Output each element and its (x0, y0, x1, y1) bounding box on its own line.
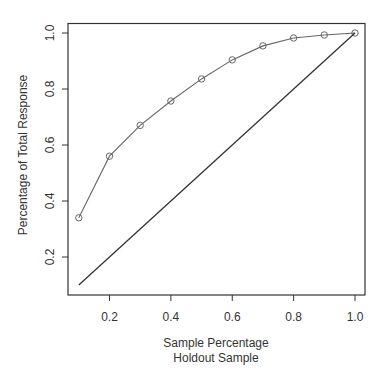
gains-chart: 0.20.40.60.81.0 0.20.40.60.81.0 Sample P… (0, 0, 385, 378)
baseline-line (79, 33, 355, 285)
x-tick-label: 0.6 (224, 310, 241, 324)
gains-line (79, 33, 355, 218)
x-axis: 0.20.40.60.81.0 (101, 295, 364, 324)
y-axis: 0.20.40.60.81.0 (43, 24, 68, 265)
y-tick-label: 0.2 (43, 248, 57, 265)
x-axis-label: Sample Percentage (163, 336, 269, 350)
x-tick-label: 1.0 (347, 310, 364, 324)
x-tick-label: 0.2 (101, 310, 118, 324)
y-axis-label: Percentage of Total Response (16, 74, 30, 235)
y-tick-label: 0.4 (43, 192, 57, 209)
y-tick-label: 1.0 (43, 24, 57, 41)
series-layer (76, 30, 359, 285)
x-tick-label: 0.4 (163, 310, 180, 324)
y-tick-label: 0.6 (43, 136, 57, 153)
x-tick-label: 0.8 (285, 310, 302, 324)
x-axis-sublabel: Holdout Sample (173, 351, 259, 365)
y-tick-label: 0.8 (43, 80, 57, 97)
